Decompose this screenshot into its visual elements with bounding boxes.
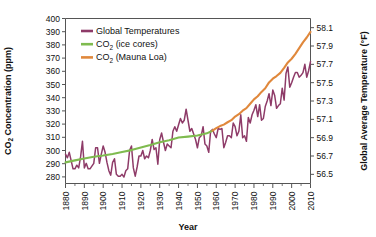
y-axis-left: 280290300310320330340350360370380390400 <box>46 14 66 182</box>
x-tick-label: 1990 <box>268 191 278 210</box>
y-tick-label-left: 300 <box>46 146 60 156</box>
x-axis-title: Year <box>178 222 198 232</box>
y-tick-label-right: 56.7 <box>317 151 334 161</box>
y-axis-right: 56.556.756.957.157.357.557.757.958.1 <box>311 23 334 180</box>
svg-text:CO2 Concentration (ppm): CO2 Concentration (ppm) <box>3 47 14 155</box>
x-tick-label: 1940 <box>174 191 184 210</box>
y-tick-label-right: 56.9 <box>317 133 334 143</box>
y-tick-label-right: 57.7 <box>317 59 334 69</box>
x-tick-label: 1960 <box>211 191 221 210</box>
y-tick-label-right: 57.1 <box>317 114 334 124</box>
y-axis-right-title: Global Average Temperature (°F) <box>359 31 369 170</box>
co2-temperature-chart: 2802903003103203303403503603703803904005… <box>0 0 376 237</box>
x-tick-label: 1970 <box>230 191 240 210</box>
legend: Global TemperaturesCO2 (ice cores)CO2 (M… <box>81 26 180 64</box>
y-tick-label-right: 56.5 <box>317 169 334 179</box>
legend-label: CO2 (ice cores) <box>96 39 158 50</box>
y-tick-label-right: 57.3 <box>317 96 334 106</box>
y-tick-label-left: 330 <box>46 106 60 116</box>
y-tick-label-left: 290 <box>46 159 60 169</box>
x-tick-label: 1880 <box>61 191 71 210</box>
x-axis: 1880189019001910192019301940195019601970… <box>61 184 316 211</box>
chart-canvas: 2802903003103203303403503603703803904005… <box>0 0 376 237</box>
y-tick-label-left: 360 <box>46 66 60 76</box>
x-tick-label: 2010 <box>306 191 316 210</box>
y-tick-label-right: 57.5 <box>317 78 334 88</box>
x-tick-label: 2000 <box>287 191 297 210</box>
y-tick-label-left: 350 <box>46 80 60 90</box>
x-tick-label: 1950 <box>193 191 203 210</box>
y-tick-label-right: 58.1 <box>317 23 334 33</box>
y-tick-label-left: 390 <box>46 27 60 37</box>
y-axis-left-title: CO2 Concentration (ppm) <box>3 47 14 155</box>
y-tick-label-right: 57.9 <box>317 41 334 51</box>
legend-label: Global Temperatures <box>96 26 180 36</box>
x-tick-label: 1930 <box>155 191 165 210</box>
x-tick-label: 1910 <box>117 191 127 210</box>
y-tick-label-left: 340 <box>46 93 60 103</box>
x-tick-label: 1900 <box>98 191 108 210</box>
legend-label: CO2 (Mauna Loa) <box>96 52 167 63</box>
y-tick-label-left: 280 <box>46 172 60 182</box>
y-tick-label-left: 370 <box>46 53 60 63</box>
x-tick-label: 1980 <box>249 191 259 210</box>
x-tick-label: 1920 <box>136 191 146 210</box>
y-tick-label-left: 400 <box>46 14 60 24</box>
y-tick-label-left: 320 <box>46 119 60 129</box>
y-tick-label-left: 380 <box>46 40 60 50</box>
x-tick-label: 1890 <box>80 191 90 210</box>
y-tick-label-left: 310 <box>46 132 60 142</box>
